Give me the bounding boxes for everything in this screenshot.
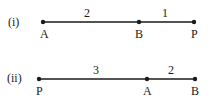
diagram-label: (i): [8, 15, 19, 29]
point-label-p: P: [191, 27, 198, 41]
diagram-i: (i) A B P 2 1: [8, 6, 198, 41]
point-dot: [193, 77, 197, 81]
point-dot: [192, 20, 196, 24]
point-dot: [41, 20, 45, 24]
point-label-p: P: [36, 84, 43, 98]
diagram-ii: (ii) P A B 3 2: [7, 63, 199, 98]
line-division-diagram: (i) A B P 2 1 (ii) P A B 3 2: [0, 0, 217, 102]
point-dot: [145, 77, 149, 81]
point-label-a: A: [40, 27, 49, 41]
segment-ratio: 2: [84, 6, 90, 20]
diagram-label: (ii): [7, 71, 22, 85]
point-dot: [137, 20, 141, 24]
segment-ratio: 1: [162, 6, 168, 20]
segment-ratio: 3: [93, 63, 99, 77]
point-dot: [37, 77, 41, 81]
point-label-a: A: [143, 84, 152, 98]
point-label-b: B: [191, 84, 199, 98]
segment-ratio: 2: [168, 63, 174, 77]
point-label-b: B: [135, 27, 143, 41]
